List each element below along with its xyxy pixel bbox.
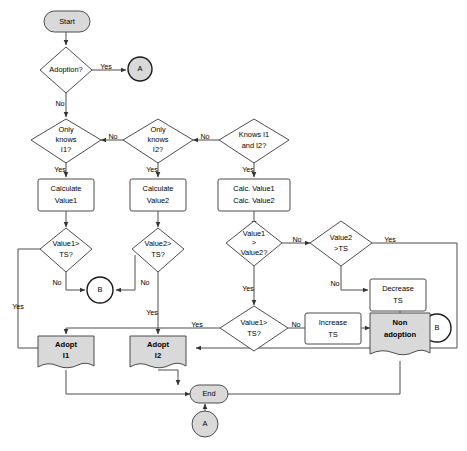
node-value1-gt-value2-line2: > [252,238,256,247]
edge-label-adoption-no: No [55,99,64,108]
node-value1-gt-value2[interactable]: Value1 > Value2? [226,221,282,266]
edge-label-both-no: No [200,132,209,141]
node-value1-gt-ts-lower-line1: Value1> [241,318,268,327]
node-decrease-ts-line1: Decrease [382,284,414,293]
node-value2-gt-ts-right[interactable]: Value2 >TS [310,221,372,266]
node-knows-both-line2: and I2? [242,141,267,150]
edge-v2tsr-no-to-decrease [341,266,368,290]
node-only-knows-i1[interactable]: Only knows I1? [31,119,101,163]
edge-label-v1ts-yes: Yes [12,302,24,311]
node-adopt-i2-line2: I2 [155,351,161,360]
flowchart-svg: Start Adoption? A Only knows I1? Only kn… [0,0,467,451]
node-connector-a-top-label: A [138,64,143,73]
edge-v1ts-no-to-b [66,272,85,290]
node-value1-gt-value2-line1: Value1 [243,229,265,238]
node-increase-ts-line1: Increase [319,318,347,327]
node-end[interactable]: End [190,385,228,403]
edge-label-v1tsl-no: No [291,320,300,329]
flowchart-canvas: Start Adoption? A Only knows I1? Only kn… [0,0,467,451]
edge-adopti2-to-end [158,370,178,385]
node-calc-both[interactable]: Calc. Value1 Calc. Value2 [218,179,290,211]
node-only-knows-i2-line2: knows [148,135,169,144]
node-increase-ts[interactable]: Increase TS [305,313,361,344]
edge-nonadoption-to-end [220,361,400,394]
node-calculate-value2[interactable]: Calculate Value2 [130,179,186,211]
node-adopt-i1-line1: Adopt [55,340,77,349]
node-connector-b-mid-label: B [98,285,103,294]
node-adopt-i2-line1: Adopt [147,340,169,349]
node-calculate-value2-line1: Calculate [143,184,174,193]
node-value1-gt-ts-lower[interactable]: Value1> TS? [220,306,288,351]
node-only-knows-i1-line3: I1? [61,145,71,154]
node-value1-gt-ts-line2: TS? [59,250,73,259]
node-calculate-value2-line2: Value2 [147,196,169,205]
node-adoption[interactable]: Adoption? [40,47,92,93]
node-non-adoption-line1: Non [393,318,408,327]
node-connector-b-right-label: B [435,323,440,332]
edge-label-v1v2-no: No [292,235,301,244]
node-knows-both-line1: Knows I1 [239,130,269,139]
edge-label-both-yes: Yes [242,165,254,174]
node-adopt-i2[interactable]: Adopt I2 [130,336,186,368]
node-connector-a-top[interactable]: A [128,57,152,81]
node-calculate-value1-line1: Calculate [51,184,82,193]
node-value2-gt-ts-line1: Value2> [145,239,172,248]
node-connector-a-bottom-label: A [203,419,208,428]
node-only-knows-i2-line3: I2? [153,145,163,154]
node-decrease-ts-line2: TS [393,296,403,305]
node-non-adoption-line2: adoption [384,330,416,339]
node-calculate-value1[interactable]: Calculate Value1 [38,179,94,211]
edge-label-adoption-yes: Yes [100,62,112,71]
node-calc-both-line2: Calc. Value2 [233,196,274,205]
edge-label-v2tsr-no: No [330,279,339,288]
node-adopt-i1[interactable]: Adopt I1 [38,336,94,368]
node-value2-gt-ts-right-line2: >TS [334,244,348,253]
node-only-knows-i1-line1: Only [58,125,74,134]
node-value2-gt-ts[interactable]: Value2> TS? [132,228,184,272]
node-start-label: Start [59,17,75,26]
edge-label-v2tsr-yes: Yes [384,235,396,244]
node-start[interactable]: Start [44,11,90,32]
edge-v1ts-yes-to-adopti1 [18,249,47,348]
edge-label-v2ts-yes: Yes [146,308,158,317]
edge-adopti1-to-end [66,370,190,394]
node-value2-gt-ts-right-line1: Value2 [330,233,352,242]
node-value2-gt-ts-line2: TS? [151,250,165,259]
node-calc-both-line1: Calc. Value1 [233,184,274,193]
node-decrease-ts[interactable]: Decrease TS [370,279,426,311]
edge-rail-to-adopti1-top [66,328,158,334]
node-value1-gt-value2-line3: Value2? [241,248,268,257]
node-knows-i1-and-i2[interactable]: Knows I1 and I2? [219,119,289,163]
node-adopt-i1-line2: I1 [63,351,70,360]
node-value1-gt-ts[interactable]: Value1> TS? [40,228,92,272]
node-value1-gt-ts-line1: Value1> [53,239,80,248]
edge-label-i1-yes: Yes [54,165,66,174]
node-only-knows-i2[interactable]: Only knows I2? [123,119,193,163]
edge-v2ts-no-to-b [116,255,135,290]
node-calculate-value1-line2: Value1 [55,196,77,205]
node-end-label: End [202,389,215,398]
edge-label-v1ts-no: No [52,278,61,287]
node-only-knows-i2-line1: Only [150,125,166,134]
node-connector-b-mid[interactable]: B [87,277,113,303]
node-non-adoption[interactable]: Non adoption [370,313,430,355]
edge-label-v1tsl-yes: Yes [191,320,203,329]
node-adoption-label: Adoption? [49,65,82,74]
edge-label-i2-yes: Yes [146,165,158,174]
edge-label-v1v2-yes: Yes [242,284,254,293]
edge-label-v2ts-no: No [140,278,149,287]
node-only-knows-i1-line2: knows [56,135,77,144]
node-connector-a-bottom[interactable]: A [192,411,218,437]
edge-label-i2-no: No [108,132,117,141]
node-value1-gt-ts-lower-line2: TS? [247,329,261,338]
node-increase-ts-line2: TS [328,330,338,339]
